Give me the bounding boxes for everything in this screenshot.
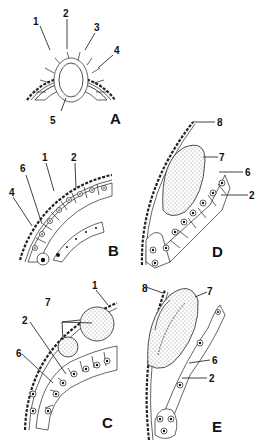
- stippled-body-small-c: [58, 337, 78, 357]
- callout-2: 2: [249, 190, 255, 201]
- callout-1: 1: [33, 16, 39, 27]
- stippled-body-d: [163, 145, 205, 215]
- callout-5: 5: [50, 115, 56, 126]
- callout-8: 8: [217, 117, 223, 128]
- basal-cells-e: [155, 409, 177, 439]
- panel-label-e: E: [212, 418, 222, 435]
- callout-8: 8: [142, 283, 148, 294]
- callout-2: 2: [71, 152, 77, 163]
- callout-7: 7: [207, 286, 213, 297]
- callout-1: 1: [42, 152, 48, 163]
- callout-7: 7: [45, 297, 51, 308]
- callout-6: 6: [245, 167, 251, 178]
- panel-d: 8 7 6 2 D: [142, 117, 255, 268]
- panel-label-c: C: [102, 414, 113, 431]
- panel-label-b: B: [108, 242, 119, 259]
- callout-2: 2: [209, 373, 215, 384]
- callout-1: 1: [92, 280, 98, 291]
- lumen-a: [59, 63, 83, 97]
- stippled-body-large-c: [80, 307, 114, 341]
- figure-canvas: 1 2 3 4 5 A: [0, 0, 265, 448]
- panel-c: 1 7 2 6 C: [16, 280, 117, 431]
- panel-b: 6 1 2 4 B: [9, 152, 119, 265]
- panel-label-a: A: [110, 110, 121, 127]
- callout-6: 6: [20, 163, 26, 174]
- callout-6: 6: [212, 355, 218, 366]
- callout-7: 7: [219, 152, 225, 163]
- callout-2: 2: [63, 8, 69, 19]
- callout-3: 3: [94, 22, 100, 33]
- callout-2: 2: [22, 315, 28, 326]
- panel-e: 8 7 6 2 E: [142, 283, 225, 440]
- callout-4: 4: [9, 187, 15, 198]
- callout-4: 4: [114, 45, 120, 56]
- panel-label-d: D: [212, 243, 223, 260]
- panel-a: 1 2 3 4 5 A: [27, 8, 121, 127]
- callout-6: 6: [16, 348, 22, 359]
